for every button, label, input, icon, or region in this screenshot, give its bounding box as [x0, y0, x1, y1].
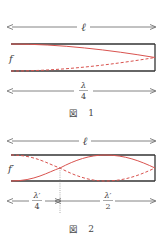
standing-wave	[11, 44, 155, 71]
standing-wave	[11, 155, 155, 181]
caption-1: 図 1	[69, 108, 94, 118]
svg-text:図: 図	[69, 108, 78, 118]
length-arrow: ℓ	[12, 21, 155, 34]
half-wavelength-arrow: λ′ 2	[60, 191, 155, 211]
wavelength-numerator: λ	[80, 81, 86, 90]
frequency-label: f	[8, 53, 15, 64]
svg-text:2: 2	[88, 224, 94, 234]
svg-text:図: 図	[69, 224, 78, 234]
segment2-denominator: 2	[105, 202, 110, 211]
quarter-wavelength-arrow: λ 4	[12, 81, 155, 101]
wavelength-denominator: 4	[81, 92, 86, 101]
length-label: ℓ	[83, 135, 88, 148]
segment1-numerator: λ′	[33, 191, 41, 200]
segment1-denominator: 4	[34, 202, 39, 211]
quarter-wavelength-arrow: λ′ 4	[12, 191, 60, 211]
length-arrow: ℓ	[12, 135, 155, 148]
caption-2: 図 2	[69, 224, 94, 234]
svg-text:1: 1	[88, 108, 94, 118]
length-label: ℓ	[81, 21, 86, 34]
segment2-numerator: λ′	[104, 191, 112, 200]
frequency-label: f′	[7, 163, 15, 174]
figure-1: ℓ f λ 4 図 1	[8, 21, 155, 118]
figure-2: ℓ f′ λ′ 4 λ′ 2 図 2	[7, 135, 155, 234]
closed-pipe-diagrams: ℓ f λ 4 図 1 ℓ	[0, 0, 167, 243]
